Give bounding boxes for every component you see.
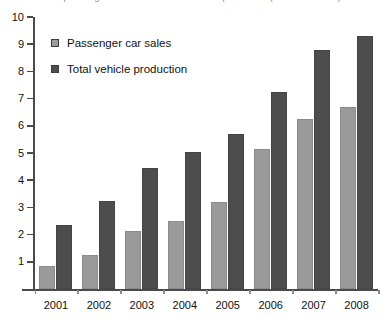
y-axis-label-text-7: 7 bbox=[2, 93, 24, 104]
x-axis-tick-0 bbox=[77, 290, 79, 294]
y-axis-tick-7 bbox=[27, 98, 33, 100]
y-axis-label-3: 3 bbox=[0, 202, 24, 213]
bar-2006-series-1 bbox=[271, 92, 287, 289]
y-axis-tick-2 bbox=[27, 234, 33, 236]
x-axis-label-2005: 2005 bbox=[206, 299, 249, 312]
x-axis-label-2003: 2003 bbox=[120, 299, 163, 312]
plot-area: 12345678910 2001200220032004200520062007… bbox=[0, 0, 384, 328]
y-axis-label-1: 1 bbox=[0, 256, 24, 267]
bar-2006-series-0 bbox=[254, 149, 270, 289]
y-axis-tick-5 bbox=[27, 152, 33, 154]
y-axis-tick-8 bbox=[27, 71, 33, 73]
x-axis-label-2004: 2004 bbox=[163, 299, 206, 312]
bar-2002-series-1 bbox=[99, 201, 115, 289]
bar-chart: Chinese passenger car sales and total ve… bbox=[0, 0, 384, 328]
x-axis-label-2002: 2002 bbox=[77, 299, 120, 312]
bar-2008-series-0 bbox=[340, 107, 356, 289]
legend-item-total-vehicle-production: Total vehicle production bbox=[51, 62, 187, 76]
y-axis-label-text-8: 8 bbox=[2, 66, 24, 77]
y-axis-label-7: 7 bbox=[0, 93, 24, 104]
x-axis-tick-origin bbox=[35, 290, 37, 294]
y-axis-label-8: 8 bbox=[0, 66, 24, 77]
y-axis-label-text-1: 1 bbox=[2, 256, 24, 267]
legend-label-series-1: Total vehicle production bbox=[67, 63, 187, 75]
y-axis-tick-4 bbox=[27, 179, 33, 181]
y-axis-label-6: 6 bbox=[0, 120, 24, 131]
x-axis-tick-3 bbox=[206, 290, 208, 294]
legend-label-series-0: Passenger car sales bbox=[67, 37, 171, 49]
y-axis-label-2: 2 bbox=[0, 229, 24, 240]
bar-2003-series-0 bbox=[125, 231, 141, 289]
bar-2005-series-0 bbox=[211, 202, 227, 289]
x-axis-tick-5 bbox=[292, 290, 294, 294]
bar-2004-series-0 bbox=[168, 221, 184, 289]
x-axis-label-2006: 2006 bbox=[249, 299, 292, 312]
x-axis-tick-6 bbox=[335, 290, 337, 294]
y-axis-label-text-2: 2 bbox=[2, 229, 24, 240]
x-axis-tick-4 bbox=[249, 290, 251, 294]
bar-2001-series-0 bbox=[39, 266, 55, 289]
x-axis-label-2007: 2007 bbox=[292, 299, 335, 312]
chart-legend: Passenger car sales Total vehicle produc… bbox=[51, 36, 187, 88]
x-axis-label-2001: 2001 bbox=[35, 299, 78, 312]
y-axis-tick-1 bbox=[27, 261, 33, 263]
x-axis-label-2008: 2008 bbox=[335, 299, 378, 312]
bar-2002-series-0 bbox=[82, 255, 98, 289]
bar-2003-series-1 bbox=[142, 168, 158, 289]
y-axis-label-text-3: 3 bbox=[2, 202, 24, 213]
y-axis-line bbox=[33, 17, 35, 289]
y-axis-tick-10 bbox=[27, 16, 33, 18]
y-axis-tick-6 bbox=[27, 125, 33, 127]
bar-2007-series-1 bbox=[314, 50, 330, 289]
bar-2001-series-1 bbox=[56, 225, 72, 289]
y-axis-label-10: 10 bbox=[0, 12, 24, 23]
x-axis-line bbox=[22, 289, 378, 291]
bar-2005-series-1 bbox=[228, 134, 244, 289]
bar-2008-series-1 bbox=[357, 36, 373, 289]
bar-2004-series-1 bbox=[185, 152, 201, 289]
x-axis-tick-2 bbox=[163, 290, 165, 294]
y-axis-label-text-4: 4 bbox=[2, 175, 24, 186]
bar-2007-series-0 bbox=[297, 119, 313, 289]
x-axis-tick-7 bbox=[378, 290, 380, 294]
legend-item-passenger-car-sales: Passenger car sales bbox=[51, 36, 187, 50]
y-axis-label-text-6: 6 bbox=[2, 120, 24, 131]
y-axis-label-text-5: 5 bbox=[2, 148, 24, 159]
y-axis-label-text-10: 10 bbox=[2, 12, 24, 23]
y-axis-tick-9 bbox=[27, 43, 33, 45]
y-axis-tick-3 bbox=[27, 207, 33, 209]
x-axis-tick-1 bbox=[120, 290, 122, 294]
y-axis-label-4: 4 bbox=[0, 175, 24, 186]
y-axis-label-text-9: 9 bbox=[2, 39, 24, 50]
y-axis-label-9: 9 bbox=[0, 39, 24, 50]
y-axis-label-5: 5 bbox=[0, 148, 24, 159]
legend-swatch-icon-series-0 bbox=[51, 39, 59, 47]
legend-swatch-icon-series-1 bbox=[51, 65, 59, 73]
